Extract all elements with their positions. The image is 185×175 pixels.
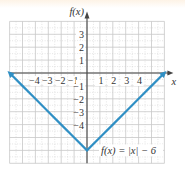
y-axis-label: f(x) — [69, 6, 84, 18]
x-tick-label: −3 — [42, 75, 53, 86]
tick-labels: −4−3−2−11234321−1−2−3−4 — [29, 28, 144, 130]
function-graph: −4−3−2−11234321−1−2−3−4 f(x) x f(x) = |x… — [0, 0, 185, 175]
x-tick-label: 1 — [98, 75, 103, 86]
y-tick-label: −4 — [73, 120, 84, 131]
y-axis-arrow-icon — [85, 11, 90, 18]
y-tick-label: −1 — [73, 81, 84, 92]
x-axis-arrow-icon — [167, 71, 173, 76]
function-label: f(x) = |x| − 6 — [101, 145, 157, 157]
y-tick-label: 3 — [79, 29, 84, 40]
x-tick-label: 4 — [137, 75, 142, 86]
y-tick-label: 2 — [79, 42, 84, 53]
x-tick-label: −4 — [29, 75, 40, 86]
x-axis-label: x — [170, 76, 176, 87]
y-tick-label: −2 — [73, 94, 84, 105]
y-tick-label: 1 — [79, 55, 84, 66]
y-tick-label: −3 — [73, 107, 84, 118]
x-tick-label: 3 — [124, 75, 129, 86]
x-tick-label: −2 — [55, 75, 66, 86]
x-tick-label: 2 — [111, 75, 116, 86]
